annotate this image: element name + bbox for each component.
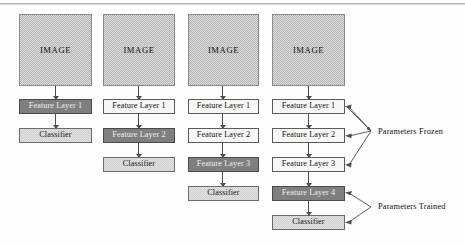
classifier-box[interactable]: Classifier (272, 215, 345, 230)
classifier-box[interactable]: Classifier (103, 157, 175, 172)
feature-layer-1-box[interactable]: Feature Layer 1 (188, 99, 259, 114)
classifier-box[interactable]: Classifier (19, 128, 92, 143)
image-box: IMAGE (188, 14, 259, 86)
feature-layer-2-box[interactable]: Feature Layer 2 (188, 128, 259, 143)
feature-layer-2-box[interactable]: Feature Layer 2 (272, 128, 345, 143)
image-box: IMAGE (103, 14, 175, 86)
feature-layer-1-box[interactable]: Feature Layer 1 (19, 99, 92, 114)
classifier-box[interactable]: Classifier (188, 186, 259, 201)
arrow-connector (308, 114, 309, 128)
feature-layer-4-box[interactable]: Feature Layer 4 (272, 186, 345, 201)
arrow-connector (308, 86, 309, 99)
diagram-canvas: IMAGE Feature Layer 1 Classifier IMAGE F… (0, 0, 465, 245)
arrow-connector (138, 114, 139, 128)
arrow-connector (308, 172, 309, 186)
image-box: IMAGE (19, 14, 92, 86)
scan-artifact-line-secondary (0, 4, 465, 5)
parameters-trained-leaders (345, 191, 371, 225)
feature-layer-3-box[interactable]: Feature Layer 3 (272, 157, 345, 172)
arrow-connector (222, 114, 223, 128)
arrow-connector (308, 201, 309, 215)
parameters-frozen-label: Parameters Frozen (378, 127, 443, 136)
feature-layer-1-box[interactable]: Feature Layer 1 (272, 99, 345, 114)
arrow-connector (138, 143, 139, 157)
arrow-connector (222, 143, 223, 157)
arrow-connector (138, 86, 139, 99)
arrow-connector (222, 172, 223, 186)
arrow-connector (55, 86, 56, 99)
arrow-connector (308, 143, 309, 157)
feature-layer-2-box[interactable]: Feature Layer 2 (103, 128, 175, 143)
feature-layer-1-box[interactable]: Feature Layer 1 (103, 99, 175, 114)
parameters-frozen-leaders (345, 105, 371, 168)
arrow-connector (55, 114, 56, 128)
parameters-trained-label: Parameters Trained (378, 202, 446, 211)
arrow-connector (222, 86, 223, 99)
feature-layer-3-box[interactable]: Feature Layer 3 (188, 157, 259, 172)
image-box: IMAGE (272, 14, 345, 86)
